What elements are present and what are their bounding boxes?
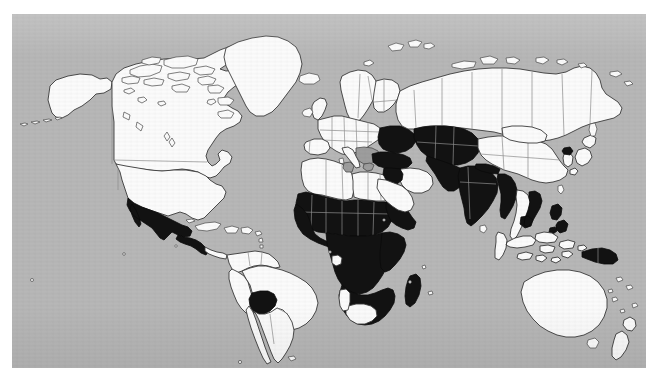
country-ukraine	[378, 126, 416, 153]
islands-pacific	[608, 277, 638, 313]
island-aleutians	[20, 117, 62, 126]
region-south-america	[227, 251, 318, 364]
island-falklands	[288, 356, 296, 361]
region-east-africa	[380, 232, 406, 272]
island-iceland	[299, 73, 320, 84]
country-gabon	[332, 255, 342, 266]
region-oceania	[521, 270, 638, 360]
island-sakhalin	[589, 123, 597, 136]
country-costa-rica-panama	[205, 247, 227, 259]
region-asia	[372, 56, 633, 264]
page-root	[0, 0, 651, 381]
island-sri-lanka	[480, 225, 487, 233]
island-taiwan	[558, 185, 564, 194]
country-north-korea	[562, 147, 573, 155]
islands-arctic-europe	[364, 40, 435, 66]
country-south-africa	[346, 304, 377, 324]
country-namibia	[339, 289, 350, 311]
country-alaska	[48, 74, 112, 118]
country-guatemala-honduras-nicaragua	[176, 235, 208, 255]
world-map-panel	[12, 14, 646, 368]
island-tasmania	[587, 338, 599, 348]
country-spain-portugal	[304, 139, 330, 155]
country-japan	[570, 135, 596, 175]
country-greenland	[224, 36, 302, 116]
island-ireland	[302, 108, 313, 117]
world-map-svg	[12, 14, 646, 368]
country-australia	[521, 270, 607, 337]
country-new-zealand	[612, 317, 636, 360]
country-india	[458, 166, 498, 226]
country-korea	[563, 153, 573, 167]
country-greece	[363, 163, 374, 171]
region-north-america	[20, 36, 302, 259]
country-philippines	[549, 204, 568, 234]
country-indonesia	[495, 232, 587, 263]
country-madagascar	[405, 274, 421, 307]
island-new-guinea	[582, 248, 618, 264]
country-united-kingdom	[312, 98, 327, 120]
country-bangladesh-myanmar	[497, 174, 517, 219]
islands-indian-ocean	[422, 265, 433, 295]
country-turkey-caucasus	[372, 152, 412, 169]
